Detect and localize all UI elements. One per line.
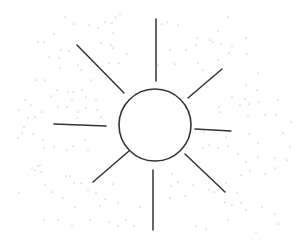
ray-right xyxy=(195,129,231,131)
dot xyxy=(133,225,134,226)
dot xyxy=(264,114,265,115)
dot xyxy=(66,149,67,150)
dot xyxy=(213,191,214,192)
dot xyxy=(34,169,35,170)
dot xyxy=(42,139,43,140)
dot xyxy=(257,142,258,143)
dot xyxy=(157,64,158,65)
dot xyxy=(112,32,113,33)
dot xyxy=(108,62,109,63)
dot xyxy=(237,153,238,154)
dot xyxy=(274,167,275,168)
dot xyxy=(245,37,246,38)
dot xyxy=(217,59,218,60)
dot xyxy=(240,174,241,175)
dot xyxy=(95,192,96,193)
dot xyxy=(282,132,283,133)
sun-rays xyxy=(54,19,231,230)
dot xyxy=(110,44,111,45)
dot xyxy=(30,104,31,105)
dot xyxy=(289,146,290,147)
dot xyxy=(126,53,127,54)
dot xyxy=(104,198,105,199)
dot xyxy=(231,45,232,46)
dot xyxy=(60,49,61,50)
ray-bottom-left xyxy=(93,151,129,182)
dot xyxy=(40,171,41,172)
dot xyxy=(89,219,90,220)
dot xyxy=(21,132,22,133)
dot xyxy=(57,219,58,220)
dot xyxy=(100,42,101,43)
dot xyxy=(56,89,57,90)
dot xyxy=(24,99,25,100)
dot xyxy=(66,106,67,107)
dot xyxy=(43,147,44,148)
dot xyxy=(43,219,44,220)
dot xyxy=(119,13,120,14)
scattered-dots xyxy=(17,13,291,232)
dot xyxy=(35,79,36,80)
dot xyxy=(95,99,96,100)
dot xyxy=(112,47,113,48)
ray-left xyxy=(54,124,106,126)
dot xyxy=(115,16,116,17)
dot xyxy=(203,131,204,132)
dot xyxy=(202,147,203,148)
dot xyxy=(53,33,54,34)
dot xyxy=(277,99,278,100)
dot xyxy=(286,159,287,160)
dot xyxy=(255,231,256,232)
dot xyxy=(195,225,196,226)
dot xyxy=(57,106,58,107)
dot xyxy=(197,62,198,63)
dot xyxy=(65,175,66,176)
dot xyxy=(218,106,219,107)
dot xyxy=(51,191,52,192)
dot xyxy=(227,219,228,220)
dot xyxy=(99,205,100,206)
sun-drawing xyxy=(0,0,298,245)
dot xyxy=(77,111,78,112)
dot xyxy=(32,133,33,134)
dot xyxy=(249,170,250,171)
dot xyxy=(231,204,232,205)
dot xyxy=(17,137,18,138)
dot xyxy=(245,84,246,85)
dot xyxy=(169,49,170,50)
dot xyxy=(87,189,88,190)
dot xyxy=(256,89,257,90)
dot xyxy=(112,183,113,184)
dot xyxy=(227,145,228,146)
sun-drawing-canvas xyxy=(0,0,298,245)
dot xyxy=(68,50,69,51)
dot xyxy=(18,192,19,193)
dot xyxy=(196,37,197,38)
dot xyxy=(195,44,196,45)
dot xyxy=(117,225,118,226)
dot xyxy=(43,41,44,42)
dot xyxy=(245,209,246,210)
dot xyxy=(166,21,167,22)
dot xyxy=(58,57,59,58)
dot xyxy=(170,185,171,186)
dot xyxy=(39,164,40,165)
dot xyxy=(177,24,178,25)
dot xyxy=(44,184,45,185)
dot xyxy=(69,175,70,176)
dot xyxy=(88,24,89,25)
dot xyxy=(275,114,276,115)
dot xyxy=(53,146,54,147)
dot xyxy=(37,41,38,42)
dot xyxy=(224,201,225,202)
dot xyxy=(34,116,35,117)
dot xyxy=(85,96,86,97)
dot xyxy=(225,182,226,183)
dot xyxy=(67,91,68,92)
dot xyxy=(161,23,162,24)
dot xyxy=(118,62,119,63)
dot xyxy=(23,126,24,127)
dot xyxy=(240,202,241,203)
dot xyxy=(247,115,248,116)
dot xyxy=(220,43,221,44)
